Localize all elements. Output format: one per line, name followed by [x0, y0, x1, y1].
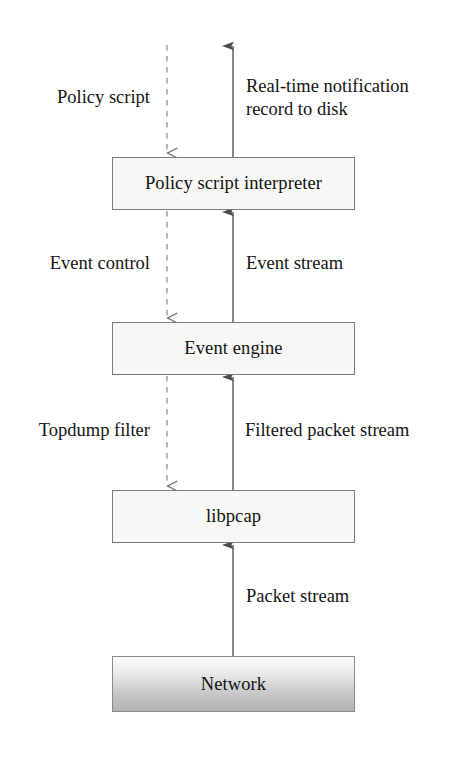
node-network[interactable]: Network — [112, 656, 355, 712]
edge-label-topdump-filter: Topdump filter — [6, 419, 150, 442]
edge-label-filtered-packet-stream: Filtered packet stream — [245, 419, 460, 442]
edge-label-event-control: Event control — [10, 252, 150, 275]
node-label-policy-script-interpreter: Policy script interpreter — [145, 173, 322, 194]
node-label-event-engine: Event engine — [184, 338, 282, 359]
node-event-engine[interactable]: Event engine — [112, 322, 355, 375]
node-label-libpcap: libpcap — [206, 506, 261, 527]
edge-label-real-time-notification: Real-time notification record to disk — [246, 75, 456, 121]
node-libpcap[interactable]: libpcap — [112, 490, 355, 543]
architecture-diagram: Policy script Real-time notification rec… — [0, 0, 461, 758]
edge-label-packet-stream: Packet stream — [246, 585, 436, 608]
node-policy-script-interpreter[interactable]: Policy script interpreter — [112, 157, 355, 210]
edge-label-event-stream: Event stream — [246, 252, 446, 275]
edge-label-policy-script: Policy script — [10, 86, 150, 109]
node-label-network: Network — [201, 674, 266, 695]
